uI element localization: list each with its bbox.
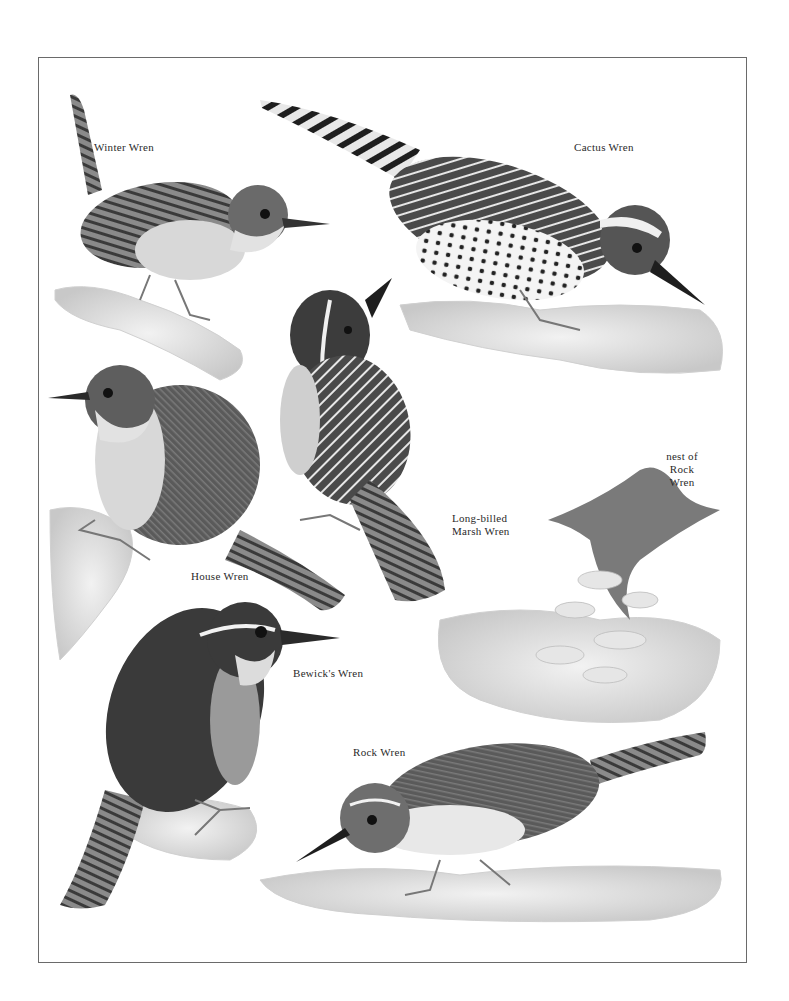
label-nest-line-3: Wren: [660, 476, 704, 489]
winter-wren-illustration: [70, 95, 330, 320]
bewicks-wren-illustration: [60, 586, 340, 909]
label-marsh-line-2: Marsh Wren: [452, 525, 510, 538]
label-nest-line-2: Rock: [660, 463, 704, 476]
label-nest-of-rock-wren: nest of Rock Wren: [660, 450, 704, 489]
label-rock-wren: Rock Wren: [353, 746, 405, 759]
label-bewicks-wren: Bewick's Wren: [293, 667, 363, 680]
label-cactus-wren: Cactus Wren: [574, 141, 634, 154]
label-house-wren: House Wren: [191, 570, 249, 583]
label-winter-wren: Winter Wren: [94, 141, 154, 154]
label-nest-line-1: nest of: [660, 450, 704, 463]
label-marsh-wren: Long-billed Marsh Wren: [452, 512, 510, 538]
label-marsh-line-1: Long-billed: [452, 512, 510, 525]
